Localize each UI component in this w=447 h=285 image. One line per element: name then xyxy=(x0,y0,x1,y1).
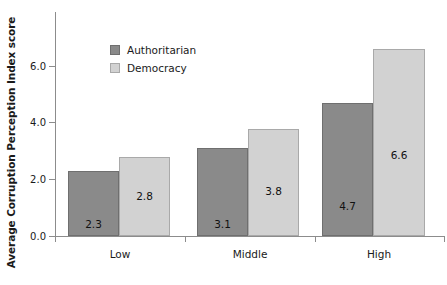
legend: Authoritarian Democracy xyxy=(110,42,196,78)
y-tick-mark-2 xyxy=(49,179,55,180)
x-tick-mark-2 xyxy=(315,236,316,242)
legend-label-authoritarian: Authoritarian xyxy=(127,44,196,56)
bar-high-authoritarian: 4.7 xyxy=(322,103,373,236)
y-axis-title: Average Corruption Perception Index scor… xyxy=(0,0,22,285)
bar-value-low-democracy: 2.8 xyxy=(120,190,169,202)
legend-swatch-icon-democracy xyxy=(110,63,120,73)
legend-swatch-icon-authoritarian xyxy=(110,45,120,55)
bar-high-democracy: 6.6 xyxy=(373,49,425,236)
bar-low-democracy: 2.8 xyxy=(119,157,170,236)
y-tick-mark-6 xyxy=(49,66,55,67)
bar-value-middle-democracy: 3.8 xyxy=(249,185,298,197)
bar-value-middle-authoritarian: 3.1 xyxy=(198,218,247,230)
legend-item-authoritarian: Authoritarian xyxy=(110,42,196,58)
y-tick-label-0: 0.0 xyxy=(14,231,46,242)
x-tick-mark-start xyxy=(55,236,56,242)
legend-item-democracy: Democracy xyxy=(110,60,196,76)
legend-label-democracy: Democracy xyxy=(127,62,187,74)
y-axis-line xyxy=(55,12,56,236)
x-tick-label-middle: Middle xyxy=(233,248,268,260)
bar-middle-authoritarian: 3.1 xyxy=(197,148,248,236)
bar-chart: Average Corruption Perception Index scor… xyxy=(0,0,447,285)
bar-low-authoritarian: 2.3 xyxy=(68,171,119,236)
x-tick-mark-1 xyxy=(185,236,186,242)
x-tick-label-high: High xyxy=(367,248,391,260)
x-tick-mark-end xyxy=(444,236,445,242)
bar-value-low-authoritarian: 2.3 xyxy=(69,218,118,230)
y-tick-mark-4 xyxy=(49,122,55,123)
y-tick-label-2: 2.0 xyxy=(14,174,46,185)
y-tick-label-4: 4.0 xyxy=(14,117,46,128)
x-tick-label-low: Low xyxy=(110,248,131,260)
bar-value-high-democracy: 6.6 xyxy=(374,149,424,161)
y-tick-label-6: 6.0 xyxy=(14,61,46,72)
bar-value-high-authoritarian: 4.7 xyxy=(323,200,372,212)
bar-middle-democracy: 3.8 xyxy=(248,129,299,236)
